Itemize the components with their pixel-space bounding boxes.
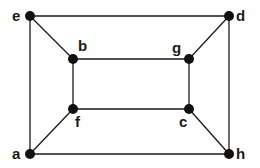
node-b	[68, 54, 78, 64]
node-h	[224, 149, 234, 159]
node-label-a: a	[12, 145, 21, 162]
node-label-c: c	[179, 113, 187, 130]
node-label-f: f	[75, 113, 81, 130]
node-d	[224, 11, 234, 21]
node-labels: edbgfcah	[12, 7, 245, 162]
edge-e-b	[30, 16, 73, 59]
graph-diagram: edbgfcah	[0, 0, 260, 168]
edge-d-g	[189, 16, 229, 59]
edges	[30, 16, 229, 154]
node-label-d: d	[236, 7, 245, 24]
node-e	[25, 11, 35, 21]
node-label-h: h	[236, 145, 245, 162]
edge-f-a	[30, 109, 73, 154]
nodes	[25, 11, 234, 159]
node-label-g: g	[172, 39, 181, 56]
node-label-e: e	[12, 7, 20, 24]
edge-c-h	[189, 109, 229, 154]
node-g	[184, 54, 194, 64]
node-a	[25, 149, 35, 159]
node-label-b: b	[78, 37, 87, 54]
